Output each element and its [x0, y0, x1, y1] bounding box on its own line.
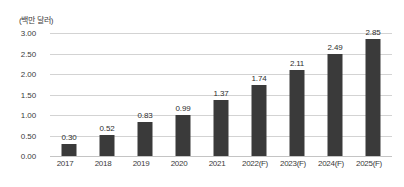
- bar-slot: 0.30: [50, 33, 88, 156]
- y-axis-tick-label: 2.50: [0, 49, 36, 58]
- bar: [252, 85, 267, 156]
- bar-value-label: 1.74: [252, 74, 267, 83]
- bar-slot: 1.74: [240, 33, 278, 156]
- bar-slot: 2.11: [278, 33, 316, 156]
- bar-slot: 0.99: [164, 33, 202, 156]
- bar: [138, 122, 153, 156]
- gridline: [50, 156, 392, 157]
- bar: [328, 54, 343, 156]
- bar-value-label: 2.11: [290, 59, 304, 68]
- bar-series: 0.300.520.830.991.371.742.112.492.85: [50, 33, 392, 156]
- y-axis-tick-label: 0.00: [0, 152, 36, 161]
- plot-area: 0.000.501.001.502.002.503.00 0.300.520.8…: [50, 33, 392, 156]
- y-axis-tick-label: 2.00: [0, 70, 36, 79]
- y-axis-tick-label: 0.50: [0, 131, 36, 140]
- bar-slot: 2.49: [316, 33, 354, 156]
- y-axis-unit-caption: (백만 달러): [19, 14, 53, 25]
- y-axis-tick-label: 3.00: [0, 29, 36, 38]
- bar-value-label: 0.83: [138, 111, 153, 120]
- bar-slot: 1.37: [202, 33, 240, 156]
- bar-chart: (백만 달러) 0.000.501.001.502.002.503.00 0.3…: [0, 0, 404, 187]
- bar-value-label: 0.52: [100, 124, 115, 133]
- bar-slot: 0.52: [88, 33, 126, 156]
- bar-value-label: 0.30: [62, 133, 77, 142]
- y-axis-tick-label: 1.00: [0, 111, 36, 120]
- bar-slot: 2.85: [354, 33, 392, 156]
- bar: [366, 39, 381, 156]
- x-axis-tick-label: 2025(F): [346, 159, 392, 168]
- bar: [290, 70, 305, 157]
- bar: [176, 115, 191, 156]
- bar: [214, 100, 229, 156]
- bar: [62, 144, 77, 156]
- bar-value-label: 2.49: [328, 43, 343, 52]
- y-axis-tick-label: 1.50: [0, 90, 36, 99]
- bar: [100, 135, 115, 156]
- bar-slot: 0.83: [126, 33, 164, 156]
- x-axis-tick-labels: 201720182019202020212022(F)2023(F)2024(F…: [50, 159, 392, 175]
- bar-value-label: 0.99: [176, 104, 191, 113]
- bar-value-label: 1.37: [214, 89, 229, 98]
- bar-value-label: 2.85: [366, 28, 381, 37]
